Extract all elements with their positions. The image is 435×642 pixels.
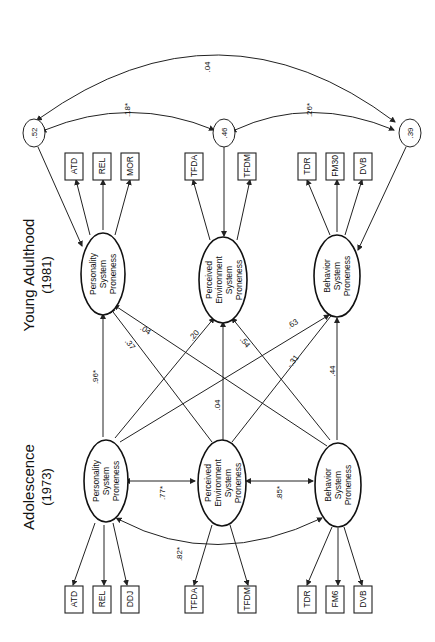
coef-env-env: .04	[213, 399, 222, 411]
svg-text:MOR: MOR	[125, 156, 135, 176]
indicator-t1-dvb: DVB	[354, 586, 372, 613]
coef-env-beh: -.31	[285, 353, 301, 370]
svg-text:FM6: FM6	[330, 590, 340, 607]
svg-text:Behavior: Behavior	[322, 259, 332, 293]
svg-text:Proneness: Proneness	[108, 254, 118, 295]
svg-text:Proneness: Proneness	[343, 465, 353, 506]
svg-text:.46: .46	[220, 127, 229, 139]
path-env-pers	[110, 308, 212, 442]
coef-res-pers-beh: .04	[203, 61, 212, 73]
svg-text:Personality: Personality	[88, 252, 98, 295]
svg-text:FM30: FM30	[330, 155, 340, 177]
residual-personality: .52	[23, 119, 45, 147]
svg-text:System: System	[101, 467, 111, 495]
coef-t1-pers-env: .77*	[158, 486, 167, 500]
svg-text:Personality: Personality	[91, 459, 101, 502]
svg-text:Proneness: Proneness	[234, 260, 244, 301]
svg-text:TFDM: TFDM	[242, 154, 252, 178]
svg-text:.18*: .18*	[123, 103, 132, 117]
svg-text:Environment: Environment	[214, 256, 224, 304]
residual-curve-env-beh	[235, 113, 394, 131]
coef-t1-pers-beh: .82*	[175, 547, 184, 561]
coef-beh-pers: .04	[138, 323, 153, 337]
svg-text:DVB: DVB	[358, 590, 368, 608]
svg-text:System: System	[223, 469, 233, 497]
svg-text:(1973): (1973)	[39, 468, 54, 506]
t2-indicators: ATD REL MOR TFDA TFDM TDR FM30 DVB	[65, 153, 372, 240]
svg-text:TFDM: TFDM	[242, 587, 252, 611]
indicator-t2-mor: MOR	[121, 153, 139, 180]
svg-text:TFDA: TFDA	[189, 155, 199, 178]
latent-t1-behavior: Behavior System Proneness	[315, 443, 361, 527]
svg-text:TDR: TDR	[302, 590, 312, 607]
coef-beh-env: .54	[238, 335, 252, 350]
svg-text:ATD: ATD	[69, 158, 79, 174]
indicator-t1-fm6: FM6	[326, 586, 344, 613]
svg-text:REL: REL	[97, 157, 107, 174]
t1-indicators: ATD REL DDJ TFDA TFDM TDR FM6 DVB	[65, 523, 372, 613]
svg-text:ATD: ATD	[69, 591, 79, 607]
svg-text:Adolescence: Adolescence	[20, 444, 37, 530]
latent-t1-environment: Perceived Environment System Proneness	[198, 440, 246, 526]
svg-text:Proneness: Proneness	[342, 256, 352, 297]
coef-pers-beh: .63	[286, 317, 301, 331]
indicator-t1-tdr: TDR	[298, 586, 316, 613]
structural-equation-model-diagram: Young Adulthood (1981) Adolescence (1973…	[0, 0, 435, 642]
residual-behavior: .39	[399, 119, 421, 147]
coef-pers-env: .20	[187, 328, 201, 343]
svg-text:Perceived: Perceived	[203, 464, 213, 502]
svg-text:.04: .04	[203, 61, 212, 73]
coef-pers-pers: .96*	[91, 370, 100, 384]
svg-text:Young Adulthood: Young Adulthood	[20, 219, 37, 332]
svg-text:Behavior: Behavior	[323, 468, 333, 502]
svg-text:Proneness: Proneness	[111, 461, 121, 502]
svg-text:System: System	[224, 266, 234, 294]
latent-t1-personality: Personality System Proneness	[84, 440, 128, 522]
latent-t2-personality: Personality System Proneness	[81, 233, 125, 315]
path-env-beh	[232, 312, 334, 442]
svg-text:System: System	[332, 262, 342, 290]
svg-text:.20: .20	[187, 328, 201, 343]
residual-environment: .46	[213, 119, 235, 147]
indicator-t1-rel: REL	[93, 586, 111, 613]
coef-res-env-beh: .26*	[305, 103, 314, 117]
indicator-t1-tfdm: TFDM	[238, 586, 256, 613]
indicator-t2-tfdm: TFDM	[238, 153, 256, 180]
svg-text:Environment: Environment	[213, 459, 223, 507]
svg-text:.82*: .82*	[175, 547, 184, 561]
coef-beh-beh: .44	[328, 365, 337, 377]
coef-res-pers-env: .18*	[123, 103, 132, 117]
svg-text:TFDA: TFDA	[189, 588, 199, 611]
title-adolescence: Adolescence (1973)	[20, 444, 54, 530]
svg-text:System: System	[98, 260, 108, 288]
structural-paths	[103, 305, 337, 446]
svg-text:REL: REL	[97, 590, 107, 607]
residual-curve-pers-beh	[40, 55, 395, 122]
indicator-t1-atd: ATD	[65, 586, 83, 613]
svg-text:.26*: .26*	[305, 103, 314, 117]
indicator-t2-tdr: TDR	[298, 153, 316, 180]
svg-text:DVB: DVB	[358, 157, 368, 175]
title-young-adulthood: Young Adulthood (1981)	[20, 219, 54, 332]
indicator-t2-dvb: DVB	[354, 153, 372, 180]
svg-text:.54: .54	[238, 335, 252, 350]
svg-text:.04: .04	[138, 323, 153, 337]
svg-text:.96*: .96*	[91, 370, 100, 384]
indicator-t2-tfda: TFDA	[185, 153, 203, 180]
coef-env-pers: .37	[123, 337, 137, 352]
indicator-t1-ddj: DDJ	[121, 586, 139, 613]
coef-t1-env-beh: .85*	[275, 486, 284, 500]
indicator-t2-fm30: FM30	[326, 153, 344, 180]
svg-text:.77*: .77*	[158, 486, 167, 500]
svg-text:DDJ: DDJ	[125, 591, 135, 608]
svg-text:(1981): (1981)	[39, 256, 54, 294]
svg-text:.37: .37	[123, 337, 137, 352]
svg-text:TDR: TDR	[302, 157, 312, 174]
svg-text:.52: .52	[30, 127, 39, 139]
latent-t2-environment: Perceived Environment System Proneness	[199, 237, 247, 323]
svg-text:.63: .63	[286, 317, 301, 331]
svg-text:.85*: .85*	[275, 486, 284, 500]
indicator-t2-atd: ATD	[65, 153, 83, 180]
svg-text:System: System	[333, 471, 343, 499]
indicator-t1-tfda: TFDA	[185, 586, 203, 613]
